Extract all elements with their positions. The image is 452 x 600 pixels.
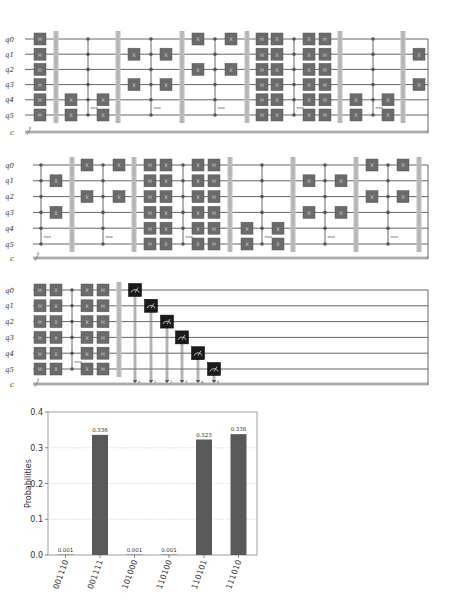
multi-controlled-z-gate[interactable]: mcz xyxy=(323,163,335,246)
gate-x[interactable]: X xyxy=(81,316,93,328)
gate-h[interactable]: H xyxy=(144,222,156,234)
gate-x[interactable]: X xyxy=(413,79,425,91)
gate-h[interactable]: H xyxy=(34,63,46,75)
gate-h[interactable]: H xyxy=(319,48,331,60)
gate-x[interactable]: X xyxy=(113,159,125,171)
gate-h[interactable]: H xyxy=(34,331,46,343)
gate-h[interactable]: H xyxy=(97,316,109,328)
gate-h[interactable]: H xyxy=(34,363,46,375)
gate-x[interactable]: X xyxy=(382,109,394,121)
gate-h[interactable]: H xyxy=(208,191,220,203)
gate-h[interactable]: H xyxy=(208,238,220,250)
gate-x[interactable]: X xyxy=(192,238,204,250)
gate-x[interactable]: X xyxy=(81,331,93,343)
gate-x[interactable]: X xyxy=(81,347,93,359)
gate-h[interactable]: H xyxy=(208,159,220,171)
gate-h[interactable]: H xyxy=(256,63,268,75)
gate-x[interactable]: X xyxy=(303,79,315,91)
gate-h[interactable]: H xyxy=(256,94,268,106)
gate-x[interactable]: X xyxy=(303,48,315,60)
gate-x[interactable]: X xyxy=(366,159,378,171)
gate-h[interactable]: H xyxy=(97,284,109,296)
gate-x[interactable]: X xyxy=(50,284,62,296)
gate-h[interactable]: H xyxy=(34,316,46,328)
gate-x[interactable]: X xyxy=(81,191,93,203)
gate-x[interactable]: X xyxy=(192,33,204,45)
gate-x[interactable]: X xyxy=(65,109,77,121)
gate-h[interactable]: H xyxy=(34,284,46,296)
gate-h[interactable]: H xyxy=(34,347,46,359)
gate-x[interactable]: X xyxy=(271,48,283,60)
gate-h[interactable]: H xyxy=(208,175,220,187)
gate-h[interactable]: H xyxy=(256,33,268,45)
gate-x[interactable]: X xyxy=(128,79,140,91)
gate-h[interactable]: H xyxy=(34,94,46,106)
measure-gate[interactable]: 2 xyxy=(161,315,174,384)
gate-x[interactable]: X xyxy=(160,206,172,218)
gate-h[interactable]: H xyxy=(319,33,331,45)
gate-x[interactable]: X xyxy=(271,33,283,45)
gate-x[interactable]: X xyxy=(303,109,315,121)
gate-x[interactable]: X xyxy=(303,33,315,45)
gate-h[interactable]: H xyxy=(319,79,331,91)
gate-x[interactable]: X xyxy=(241,222,253,234)
gate-x[interactable]: X xyxy=(335,206,347,218)
gate-x[interactable]: X xyxy=(192,159,204,171)
gate-h[interactable]: H xyxy=(34,33,46,45)
gate-x[interactable]: X xyxy=(225,63,237,75)
gate-h[interactable]: H xyxy=(97,363,109,375)
gate-x[interactable]: X xyxy=(50,316,62,328)
gate-h[interactable]: H xyxy=(34,300,46,312)
gate-x[interactable]: X xyxy=(81,363,93,375)
measure-gate[interactable]: 1 xyxy=(145,299,158,384)
gate-x[interactable]: X xyxy=(81,159,93,171)
gate-x[interactable]: X xyxy=(366,191,378,203)
gate-x[interactable]: X xyxy=(192,206,204,218)
gate-x[interactable]: X xyxy=(192,191,204,203)
gate-x[interactable]: X xyxy=(50,300,62,312)
gate-x[interactable]: X xyxy=(160,159,172,171)
gate-h[interactable]: H xyxy=(144,238,156,250)
gate-x[interactable]: X xyxy=(50,206,62,218)
multi-controlled-z-gate[interactable]: mcz xyxy=(86,37,98,117)
gate-x[interactable]: X xyxy=(382,94,394,106)
gate-x[interactable]: X xyxy=(160,175,172,187)
gate-h[interactable]: H xyxy=(34,109,46,121)
gate-x[interactable]: X xyxy=(350,94,362,106)
gate-x[interactable]: X xyxy=(160,191,172,203)
gate-x[interactable]: X xyxy=(225,33,237,45)
gate-h[interactable]: H xyxy=(97,347,109,359)
gate-x[interactable]: X xyxy=(160,222,172,234)
gate-x[interactable]: X xyxy=(397,191,409,203)
gate-x[interactable]: X xyxy=(397,159,409,171)
gate-h[interactable]: H xyxy=(256,79,268,91)
gate-x[interactable]: X xyxy=(128,48,140,60)
multi-controlled-z-gate[interactable]: mcz xyxy=(101,163,113,246)
gate-x[interactable]: X xyxy=(272,238,284,250)
gate-x[interactable]: X xyxy=(271,79,283,91)
measure-gate[interactable]: 3 xyxy=(176,331,189,384)
gate-h[interactable]: H xyxy=(319,109,331,121)
gate-x[interactable]: X xyxy=(192,175,204,187)
gate-x[interactable]: X xyxy=(50,363,62,375)
gate-x[interactable]: X xyxy=(50,331,62,343)
gate-h[interactable]: H xyxy=(144,159,156,171)
multi-controlled-z-gate[interactable]: mcz xyxy=(70,288,82,371)
gate-h[interactable]: H xyxy=(144,206,156,218)
gate-x[interactable]: X xyxy=(303,175,315,187)
gate-h[interactable]: H xyxy=(256,109,268,121)
gate-h[interactable]: H xyxy=(319,94,331,106)
gate-x[interactable]: X xyxy=(271,63,283,75)
gate-h[interactable]: H xyxy=(34,48,46,60)
gate-x[interactable]: X xyxy=(272,222,284,234)
gate-x[interactable]: X xyxy=(350,109,362,121)
gate-x[interactable]: X xyxy=(50,347,62,359)
gate-h[interactable]: H xyxy=(144,191,156,203)
gate-h[interactable]: H xyxy=(319,63,331,75)
gate-x[interactable]: X xyxy=(413,48,425,60)
gate-x[interactable]: X xyxy=(160,48,172,60)
multi-controlled-z-gate[interactable]: mcz xyxy=(386,163,398,246)
gate-x[interactable]: X xyxy=(271,109,283,121)
gate-x[interactable]: X xyxy=(113,191,125,203)
measure-gate[interactable]: 5 xyxy=(208,363,221,385)
